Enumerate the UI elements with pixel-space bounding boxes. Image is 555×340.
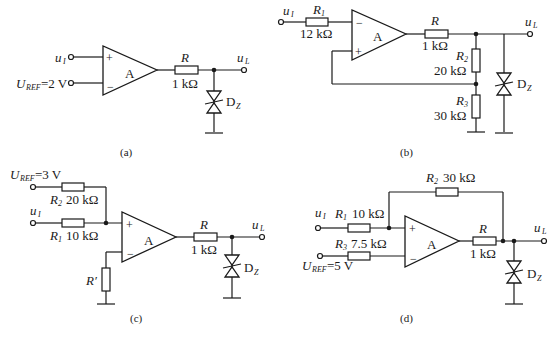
circuit-figure: + − A u I U REF =2 V R 1 kΩ u L D Z (a) <box>0 0 555 340</box>
circuit-a: + − A u I U REF =2 V R 1 kΩ u L D Z (a) <box>16 46 250 159</box>
svg-text:L: L <box>259 224 265 233</box>
resistor-rprime <box>102 268 110 291</box>
zener-label: D <box>226 94 235 109</box>
svg-text:1 kΩ: 1 kΩ <box>191 242 217 257</box>
svg-text:20 kΩ: 20 kΩ <box>66 192 98 207</box>
output-ul-label: u <box>237 50 244 65</box>
svg-text:Z: Z <box>236 102 241 111</box>
svg-text:30 kΩ: 30 kΩ <box>443 170 475 185</box>
resistor-r2 <box>62 183 84 191</box>
svg-text:R: R <box>425 170 434 185</box>
input-terminal-ui <box>69 55 74 60</box>
svg-text:A: A <box>427 237 437 252</box>
svg-text:L: L <box>244 57 250 66</box>
svg-text:Z: Z <box>537 274 542 283</box>
svg-text:R: R <box>49 228 58 243</box>
svg-text:u: u <box>252 217 259 232</box>
minus-sign: − <box>107 80 114 94</box>
svg-text:REF: REF <box>19 174 35 183</box>
svg-text:20 kΩ: 20 kΩ <box>434 63 466 78</box>
uref-value: =2 V <box>41 76 68 91</box>
svg-text:−: − <box>356 16 363 30</box>
circuit-b: u I R 1 12 kΩ − + A R 1 kΩ u L R 2 <box>279 2 539 159</box>
svg-text:30 kΩ: 30 kΩ <box>434 108 466 123</box>
svg-text:I: I <box>37 210 41 219</box>
svg-text:Z: Z <box>527 84 532 93</box>
svg-text:R: R <box>478 221 487 236</box>
output-terminal <box>528 32 533 37</box>
svg-text:REF: REF <box>25 83 41 92</box>
r-value: 1 kΩ <box>172 76 198 91</box>
svg-text:D: D <box>527 266 536 281</box>
svg-text:R′: R′ <box>85 273 97 288</box>
svg-text:1: 1 <box>343 213 347 222</box>
circuit-d: u I R 1 10 kΩ R 2 30 kΩ R 3 7.5 kΩ U REF… <box>302 170 547 325</box>
svg-text:u: u <box>534 220 541 235</box>
svg-text:−: − <box>127 247 134 261</box>
resistor-r <box>194 233 217 241</box>
svg-text:10 kΩ: 10 kΩ <box>66 228 98 243</box>
resistor-r1 <box>62 219 84 227</box>
svg-text:−: − <box>410 252 417 266</box>
opamp-label: A <box>125 66 135 81</box>
svg-text:1: 1 <box>58 235 62 244</box>
svg-text:L: L <box>532 21 538 30</box>
svg-text:u: u <box>30 203 37 218</box>
svg-text:=5 V: =5 V <box>327 258 354 273</box>
svg-text:R: R <box>312 2 321 17</box>
circuit-c: U REF =3 V R 2 20 kΩ u I R 1 10 kΩ + − A… <box>10 167 265 325</box>
svg-text:1: 1 <box>321 9 325 18</box>
svg-text:A: A <box>144 233 154 248</box>
input-ui-label: u <box>55 50 62 65</box>
svg-text:I: I <box>62 57 66 66</box>
svg-text:R: R <box>49 192 58 207</box>
svg-text:D: D <box>244 260 253 275</box>
svg-text:R: R <box>334 206 343 221</box>
input-terminal-ui <box>279 20 284 25</box>
input-terminal-uref <box>69 81 74 86</box>
svg-text:=3 V: =3 V <box>35 167 62 182</box>
svg-text:+: + <box>409 222 416 236</box>
svg-text:10 kΩ: 10 kΩ <box>352 206 384 221</box>
zener-diode-icon <box>205 70 223 133</box>
svg-text:1 kΩ: 1 kΩ <box>470 246 496 261</box>
svg-text:2: 2 <box>58 199 62 208</box>
zener-diode-icon <box>223 237 241 298</box>
svg-text:REF: REF <box>311 265 327 274</box>
caption-d: (d) <box>400 312 413 325</box>
resistor-r1 <box>348 224 370 232</box>
zener-diode-icon <box>505 241 523 304</box>
svg-text:u: u <box>283 3 290 18</box>
svg-text:u: u <box>315 205 322 220</box>
plus-sign: + <box>106 51 113 65</box>
svg-text:A: A <box>373 29 383 44</box>
output-terminal <box>242 68 247 73</box>
svg-text:D: D <box>517 76 526 91</box>
svg-text:R: R <box>455 48 464 63</box>
zener-diode-icon <box>495 34 513 133</box>
svg-text:R: R <box>180 50 189 65</box>
svg-text:I: I <box>290 10 294 19</box>
caption-c: (c) <box>130 312 143 325</box>
resistor-r <box>175 66 198 74</box>
svg-text:+: + <box>355 45 362 59</box>
resistor-r3 <box>472 95 480 118</box>
svg-text:u: u <box>525 14 532 29</box>
resistor-r <box>473 237 496 245</box>
svg-text:I: I <box>322 212 326 221</box>
svg-text:3: 3 <box>342 243 347 252</box>
svg-text:R: R <box>334 236 343 251</box>
svg-text:R: R <box>430 13 439 28</box>
svg-text:7.5 kΩ: 7.5 kΩ <box>351 236 387 251</box>
svg-text:Z: Z <box>254 268 259 277</box>
resistor-r <box>425 30 448 38</box>
svg-text:R: R <box>455 93 464 108</box>
svg-text:L: L <box>541 227 547 236</box>
caption-b: (b) <box>400 146 413 159</box>
svg-text:1 kΩ: 1 kΩ <box>422 38 448 53</box>
resistor-r2 <box>436 188 458 196</box>
svg-text:+: + <box>126 218 133 232</box>
svg-text:R: R <box>199 217 208 232</box>
svg-text:2: 2 <box>434 177 438 186</box>
resistor-r1 <box>306 18 328 26</box>
